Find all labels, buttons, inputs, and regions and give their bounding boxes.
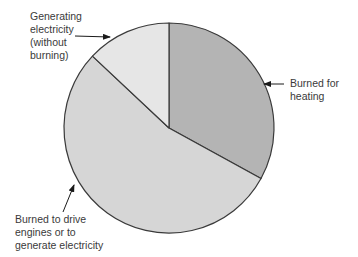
- label-burned-to-drive: Burned to drive engines or to generate e…: [15, 213, 103, 252]
- pie-slices: [64, 23, 274, 233]
- label-burned-for-heating: Burned for heating: [290, 77, 339, 103]
- label-generating-electricity: Generating electricity (without burning): [30, 10, 82, 62]
- arrow-drive: [63, 185, 74, 212]
